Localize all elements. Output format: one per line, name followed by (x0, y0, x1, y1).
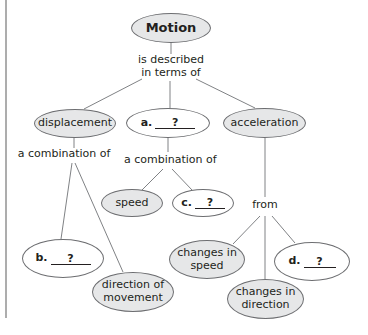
node-d-letter: d. (288, 255, 300, 268)
node-motion-label: Motion (146, 21, 197, 36)
node-acceleration-label: acceleration (231, 117, 299, 130)
concept-map: Motion is described in terms of displace… (0, 0, 368, 335)
node-direction-of-movement: direction of movement (92, 272, 174, 312)
node-direction-of-movement-label: direction of movement (102, 279, 164, 304)
node-displacement-label: displacement (38, 117, 112, 130)
node-c-blank[interactable]: c. ? (172, 189, 234, 217)
node-b-blank[interactable]: b. ? (22, 239, 104, 278)
link-label-displacement-combination: a combination of (8, 148, 120, 161)
node-changes-in-speed-label: changes in speed (177, 247, 237, 272)
answer-blank-d[interactable]: ? (304, 256, 336, 268)
node-changes-in-speed: changes in speed (169, 240, 245, 279)
node-speed-label: speed (115, 197, 148, 210)
node-speed: speed (101, 189, 163, 217)
node-b-letter: b. (35, 252, 47, 265)
answer-blank-a[interactable]: ? (155, 117, 195, 129)
answer-blank-c[interactable]: ? (195, 197, 225, 209)
node-a-letter: a. (141, 117, 153, 130)
connector-lines (0, 0, 368, 335)
node-displacement: displacement (34, 109, 116, 138)
answer-blank-b[interactable]: ? (51, 253, 91, 265)
link-label-from: from (248, 199, 282, 212)
node-d-blank[interactable]: d. ? (274, 242, 350, 281)
node-motion: Motion (131, 13, 211, 43)
node-changes-in-direction: changes in direction (227, 279, 304, 319)
node-acceleration: acceleration (223, 108, 306, 138)
node-changes-in-direction-label: changes in direction (236, 286, 296, 311)
node-a-blank[interactable]: a. ? (126, 108, 210, 138)
link-label-a-combination: a combination of (124, 154, 214, 167)
link-label-is-described-in-terms-of: is described in terms of (131, 54, 211, 79)
node-c-letter: c. (181, 197, 192, 210)
